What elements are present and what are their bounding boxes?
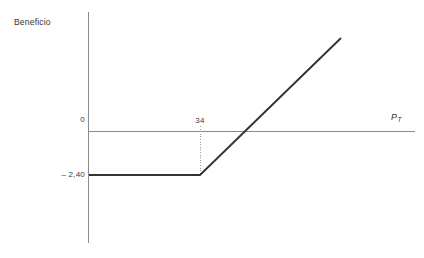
y-axis-title: Beneficio	[14, 18, 51, 27]
x-axis-title: PT	[391, 113, 401, 122]
y-tick-label-max-loss: – 2,40	[0, 171, 85, 179]
x-tick-label-strike: 34	[180, 117, 220, 125]
payoff-chart-figure: Beneficio 0 – 2,40 34 PT	[0, 0, 424, 258]
y-tick-label-zero: 0	[0, 116, 85, 124]
payoff-chart-canvas	[0, 0, 424, 258]
payoff-curve	[89, 38, 341, 175]
x-axis-title-subscript: T	[398, 116, 402, 123]
x-axis-title-base: P	[391, 112, 397, 122]
